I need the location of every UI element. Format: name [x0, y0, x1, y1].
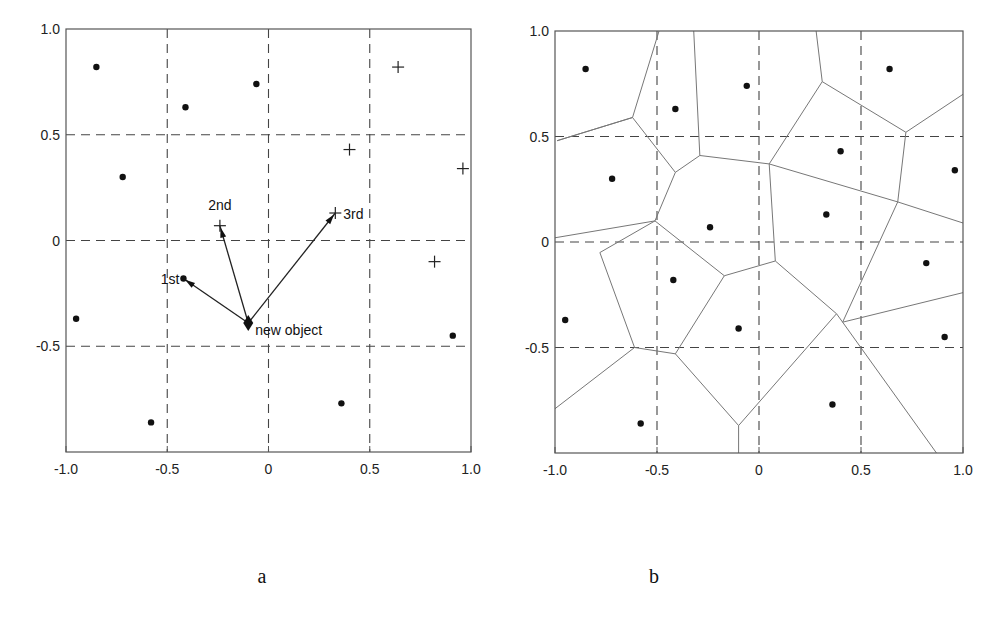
- data-point-dot: [744, 83, 750, 89]
- data-point-dot: [253, 81, 259, 87]
- voronoi-edge: [906, 94, 963, 132]
- voronoi-edge: [655, 172, 675, 221]
- x-tick-label: -0.5: [645, 462, 669, 478]
- data-point-cross: [429, 256, 441, 268]
- voronoi-edge: [898, 202, 963, 223]
- data-point-dot: [120, 174, 126, 180]
- panel-label-b: b: [649, 565, 659, 587]
- data-point-dot: [182, 104, 188, 110]
- voronoi-edge: [724, 261, 775, 276]
- new-object-diamond: [243, 315, 253, 331]
- data-point-cross: [344, 144, 356, 156]
- voronoi-edge: [633, 31, 660, 118]
- voronoi-edge: [769, 164, 775, 261]
- voronoi-edge: [843, 322, 937, 453]
- x-tick-label: -1.0: [54, 461, 78, 477]
- data-point-dot: [338, 400, 344, 406]
- data-point-dot: [670, 277, 676, 283]
- voronoi-edge: [822, 82, 906, 133]
- x-tick-label: 1.0: [953, 462, 973, 478]
- y-tick-label: 0: [541, 234, 549, 250]
- data-point-cross: [214, 220, 226, 232]
- annotation-label: new object: [255, 322, 322, 338]
- voronoi-edge: [675, 155, 699, 172]
- data-point-dot: [952, 167, 958, 173]
- data-point-dot: [450, 332, 456, 338]
- y-tick-label: 0.5: [41, 127, 61, 143]
- voronoi-edge: [675, 276, 724, 354]
- y-tick-label: 1.0: [530, 23, 550, 39]
- data-point-dot: [735, 325, 741, 331]
- data-point-dot: [829, 401, 835, 407]
- y-tick-label: -0.5: [525, 340, 549, 356]
- x-tick-label: 0: [755, 462, 763, 478]
- voronoi-edge: [633, 118, 676, 173]
- y-tick-label: 1.0: [41, 21, 61, 37]
- data-point-dot: [886, 66, 892, 72]
- voronoi-edge: [898, 132, 906, 202]
- data-point-dot: [672, 106, 678, 112]
- voronoi-edge: [655, 221, 724, 276]
- voronoi-edge: [557, 118, 632, 141]
- annotation-label: 2nd: [208, 197, 231, 213]
- data-point-dot: [707, 224, 713, 230]
- data-point-dot: [562, 317, 568, 323]
- data-point-dot: [637, 420, 643, 426]
- y-tick-label: 0: [52, 233, 60, 249]
- data-point-dot: [823, 211, 829, 217]
- voronoi-edge: [837, 314, 843, 322]
- data-point-dot: [93, 64, 99, 70]
- voronoi-edge: [555, 348, 635, 409]
- data-point-dot: [582, 66, 588, 72]
- data-point-dot: [609, 176, 615, 182]
- y-tick-label: 0.5: [530, 129, 550, 145]
- data-point-cross: [392, 61, 404, 73]
- x-tick-label: 1.0: [461, 461, 481, 477]
- voronoi-edge: [769, 164, 898, 202]
- annotation-label: 3rd: [343, 206, 363, 222]
- voronoi-edge: [675, 354, 738, 426]
- annotation-label: 1st: [161, 271, 180, 287]
- x-tick-label: 0: [265, 461, 273, 477]
- x-tick-label: -1.0: [543, 462, 567, 478]
- voronoi-edge: [600, 253, 635, 348]
- voronoi-edge: [775, 261, 836, 314]
- data-point-cross: [457, 163, 469, 175]
- voronoi-edge: [843, 202, 898, 322]
- panel-a-plot: -1.0-0.500.51.01.00.50-0.51st2nd3rdnew o…: [36, 21, 481, 477]
- data-point-dot: [73, 316, 79, 322]
- voronoi-edge: [769, 82, 822, 164]
- neighbor-arrow: [248, 213, 335, 323]
- x-tick-label: 0.5: [851, 462, 871, 478]
- data-point-dot: [923, 260, 929, 266]
- data-point-dot: [148, 419, 154, 425]
- x-tick-label: 0.5: [360, 461, 380, 477]
- arrowhead-icon: [185, 280, 195, 288]
- arrowhead-icon: [220, 228, 226, 238]
- figure: -1.0-0.500.51.01.00.50-0.51st2nd3rdnew o…: [0, 0, 998, 622]
- x-tick-label: -0.5: [155, 461, 179, 477]
- voronoi-edge: [635, 348, 676, 354]
- data-point-dot: [941, 334, 947, 340]
- panel-label-a: a: [258, 565, 267, 587]
- panel-b-plot: -1.0-0.500.51.01.00.50-0.5: [525, 23, 973, 478]
- voronoi-edge: [816, 31, 822, 82]
- data-point-dot: [180, 275, 186, 281]
- data-point-dot: [837, 148, 843, 154]
- voronoi-edge: [739, 314, 837, 426]
- y-tick-label: -0.5: [36, 338, 60, 354]
